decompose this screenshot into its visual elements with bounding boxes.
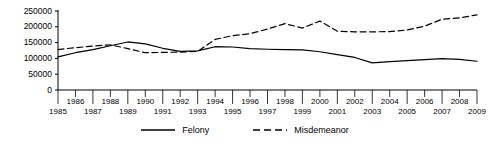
dashed-line-swatch <box>253 126 287 134</box>
chart-series <box>58 15 477 63</box>
line-chart: 050000100000150000200000250000 198519861… <box>0 0 490 144</box>
x-axis-tick-label: 2009 <box>468 107 486 116</box>
x-axis-tick-label: 2007 <box>433 107 451 116</box>
x-axis-tick-label: 1986 <box>67 97 85 106</box>
x-axis-tick-label: 1989 <box>119 107 137 116</box>
solid-line-swatch <box>141 126 175 134</box>
x-axis-tick-label: 1995 <box>224 107 242 116</box>
chart-plot-area <box>0 0 490 144</box>
chart-legend: Felony Misdemeanor <box>0 125 490 135</box>
x-axis-tick-label: 1985 <box>49 107 67 116</box>
y-axis-tick-label: 200000 <box>0 22 52 31</box>
y-axis-tick-label: 250000 <box>0 7 52 16</box>
series-line-felony <box>58 42 477 63</box>
x-axis-tick-label: 2001 <box>328 107 346 116</box>
x-axis-tick-label: 1997 <box>259 107 277 116</box>
legend-item-misdemeanor: Misdemeanor <box>253 125 349 135</box>
legend-item-felony: Felony <box>141 125 209 135</box>
x-axis-tick-label: 1987 <box>84 107 102 116</box>
x-axis-tick-label: 1988 <box>101 97 119 106</box>
x-axis-tick-label: 2006 <box>416 97 434 106</box>
x-axis-tick-label: 1996 <box>241 97 259 106</box>
x-axis-tick-label: 1993 <box>189 107 207 116</box>
x-axis-tick-label: 1990 <box>136 97 154 106</box>
legend-label-felony: Felony <box>182 125 209 135</box>
chart-axes <box>55 10 477 104</box>
series-line-misdemeanor <box>58 15 477 53</box>
legend-label-misdemeanor: Misdemeanor <box>294 125 349 135</box>
y-axis-tick-label: 100000 <box>0 54 52 63</box>
x-axis-tick-label: 2000 <box>311 97 329 106</box>
y-axis-tick-label: 0 <box>0 86 52 95</box>
x-axis-tick-label: 2008 <box>451 97 469 106</box>
x-axis-tick-label: 1992 <box>171 97 189 106</box>
y-axis-tick-label: 150000 <box>0 38 52 47</box>
x-axis-tick-label: 1999 <box>294 107 312 116</box>
x-axis-tick-label: 2004 <box>381 97 399 106</box>
x-axis-tick-label: 2005 <box>398 107 416 116</box>
x-axis-tick-label: 1991 <box>154 107 172 116</box>
y-axis-tick-label: 50000 <box>0 70 52 79</box>
x-axis-tick-label: 2002 <box>346 97 364 106</box>
x-axis-tick-label: 1994 <box>206 97 224 106</box>
x-axis-tick-label: 2003 <box>363 107 381 116</box>
x-axis-tick-label: 1998 <box>276 97 294 106</box>
